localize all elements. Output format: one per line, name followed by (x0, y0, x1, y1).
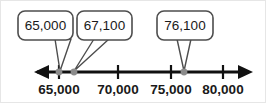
number-line-canvas: 65,000 67,100 76,100 65,000 70,000 75,00… (1, 1, 266, 103)
axis-label-75000: 75,000 (150, 82, 191, 97)
axis-group (34, 65, 253, 79)
axis-label-65000: 65,000 (38, 82, 79, 97)
axis-arrow-left-icon (34, 65, 49, 79)
axis-tick-labels-group: 65,000 70,000 75,000 80,000 (38, 82, 243, 97)
callout-tail-2 (74, 39, 109, 71)
number-line-figure: 65,000 67,100 76,100 65,000 70,000 75,00… (0, 0, 266, 103)
callout-tail-3 (177, 39, 191, 71)
callout-tail-1 (55, 39, 71, 71)
axis-label-70000: 70,000 (97, 82, 138, 97)
callout-bubble-1: 65,000 (18, 11, 73, 40)
data-point-65000 (56, 69, 63, 76)
data-point-67100 (71, 69, 78, 76)
data-point-76100 (181, 69, 188, 76)
callout-bubble-2: 67,100 (77, 11, 132, 40)
callout-bubble-2-label: 67,100 (84, 18, 125, 33)
axis-arrow-right-icon (238, 65, 253, 79)
callout-bubbles-group: 65,000 67,100 76,100 (18, 11, 213, 40)
callout-bubble-3: 76,100 (157, 11, 213, 40)
callout-bubble-1-label: 65,000 (25, 18, 66, 33)
callout-bubble-3-label: 76,100 (164, 18, 205, 33)
axis-label-80000: 80,000 (202, 82, 243, 97)
